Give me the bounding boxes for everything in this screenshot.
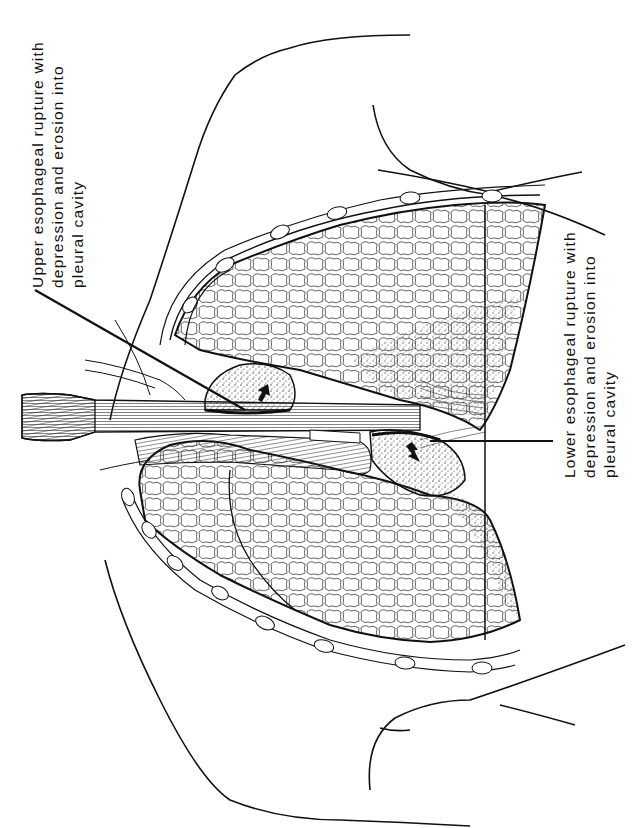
upper-rupture-site <box>205 364 295 413</box>
anatomical-illustration <box>0 0 635 828</box>
lower-label-line-1: Lower esophageal rupture with <box>560 231 580 478</box>
lower-label-line-2: depression and erosion into <box>580 231 600 478</box>
lower-label-line-3: pleural cavity <box>600 231 620 478</box>
upper-label-line-1: Upper esophageal rupture with <box>28 41 48 288</box>
lower-rupture-label: Lower esophageal rupture with depression… <box>560 231 620 478</box>
upper-label-line-3: pleural cavity <box>68 41 88 288</box>
upper-rupture-label: Upper esophageal rupture with depression… <box>28 41 88 288</box>
upper-label-line-2: depression and erosion into <box>48 41 68 288</box>
